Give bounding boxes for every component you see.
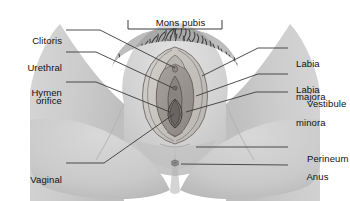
anatomy-diagram: Clitoris Urethral orifice Hymen Vaginal … <box>0 0 350 201</box>
label-mons-pubis: Mons pubis <box>125 6 225 39</box>
label-hymen: Hymen <box>0 76 62 109</box>
label-vaginal-orifice-line1: Vaginal <box>0 174 62 185</box>
label-urethral-orifice-line1: Urethral <box>0 62 62 73</box>
label-hymen-text: Hymen <box>31 87 62 98</box>
label-anus-text: Anus <box>306 171 328 182</box>
label-mons-pubis-text: Mons pubis <box>156 17 206 28</box>
label-vestibule: Vestibule <box>296 87 350 120</box>
urethral-orifice <box>173 86 177 90</box>
label-vestibule-text: Vestibule <box>307 98 346 109</box>
label-anus: Anus <box>296 160 350 193</box>
label-vaginal-orifice: Vaginal orifice <box>0 152 62 201</box>
